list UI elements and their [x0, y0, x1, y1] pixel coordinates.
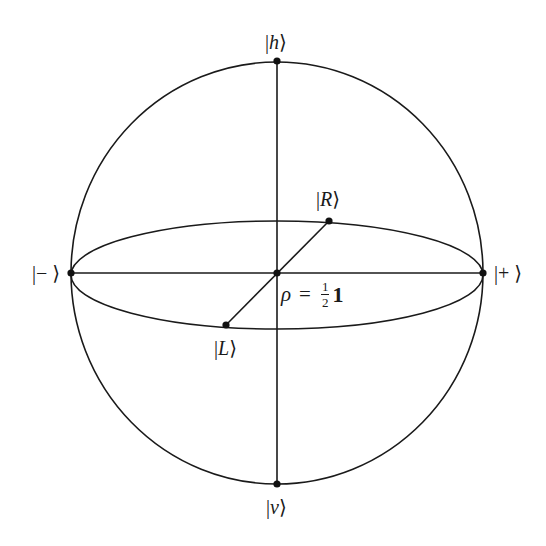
ket-symbol: L: [218, 337, 229, 359]
fraction-one-half: 1 2: [321, 280, 330, 309]
point-minus: [67, 269, 74, 276]
ket-angle: ⟩: [514, 262, 522, 284]
fraction-numerator: 1: [321, 280, 330, 295]
label-ket-R: |R⟩: [316, 189, 340, 209]
bloch-sphere-diagram: |h⟩ |v⟩ |− ⟩ |+ ⟩ |R⟩ |L⟩ ρ = 1 2 1: [0, 0, 546, 546]
label-ket-minus: |− ⟩: [32, 263, 60, 283]
rho-symbol: ρ: [281, 282, 291, 307]
ket-symbol: h: [269, 31, 279, 53]
ket-symbol: −: [36, 262, 47, 284]
equals-sign: =: [299, 282, 311, 307]
point-L: [222, 321, 229, 328]
fraction-denominator: 2: [322, 295, 329, 309]
point-h: [273, 57, 280, 64]
ket-angle: ⟩: [52, 262, 60, 284]
identity-symbol: 1: [332, 282, 343, 308]
ket-angle: ⟩: [279, 496, 287, 518]
point-center: [273, 269, 280, 276]
center-density-matrix-label: ρ = 1 2 1: [281, 280, 343, 309]
ket-symbol: +: [498, 262, 509, 284]
point-plus: [479, 269, 486, 276]
ket-symbol: R: [320, 188, 332, 210]
point-R: [325, 217, 332, 224]
label-ket-plus: |+ ⟩: [494, 263, 522, 283]
ket-angle: ⟩: [332, 188, 340, 210]
bloch-sphere-graphic: [0, 0, 546, 546]
label-ket-h: |h⟩: [265, 32, 287, 52]
ket-angle: ⟩: [279, 31, 287, 53]
label-ket-L: |L⟩: [214, 338, 237, 358]
label-ket-v: |v⟩: [266, 497, 287, 517]
ket-angle: ⟩: [229, 337, 237, 359]
ket-symbol: v: [270, 496, 279, 518]
point-v: [273, 480, 280, 487]
